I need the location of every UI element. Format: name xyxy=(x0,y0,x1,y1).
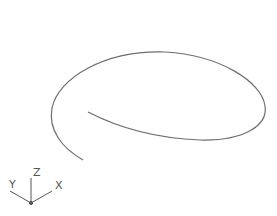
ucs-origin-marker xyxy=(29,201,32,204)
x-axis-line xyxy=(31,191,52,203)
drawing-viewport[interactable]: Z X Y xyxy=(0,0,277,216)
drawing-canvas[interactable] xyxy=(0,0,277,216)
ucs-icon xyxy=(10,178,52,205)
ucs-z-label: Z xyxy=(33,167,41,178)
y-axis-line xyxy=(10,191,31,203)
ucs-y-label: Y xyxy=(9,179,16,190)
spiral-curve[interactable] xyxy=(51,52,265,160)
ucs-x-label: X xyxy=(55,180,63,191)
